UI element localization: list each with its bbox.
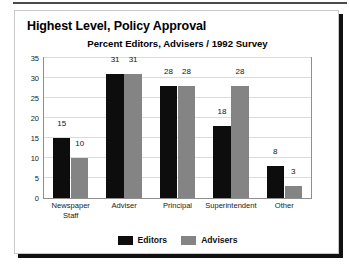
bar-editors-1 xyxy=(106,74,124,198)
legend-item-advisers: Advisers xyxy=(181,235,237,245)
x-axis-label-line: Staff xyxy=(36,211,105,221)
bar-value-label: 18 xyxy=(213,107,231,116)
chart-card: Highest Level, Policy Approval Percent E… xyxy=(14,10,339,254)
bar-editors-4 xyxy=(267,166,285,198)
bar-value-label: 31 xyxy=(124,55,142,64)
bar-advisers-4 xyxy=(285,186,303,198)
bar-value-label: 28 xyxy=(231,67,249,76)
bar-value-label: 28 xyxy=(178,67,196,76)
legend-swatch-editors xyxy=(118,236,133,245)
bar-value-label: 10 xyxy=(71,139,89,148)
chart-legend: Editors Advisers xyxy=(15,235,340,245)
bar-editors-3 xyxy=(213,126,231,198)
y-tick-label: 20 xyxy=(17,114,39,123)
chart-subtitle: Percent Editors, Advisers / 1992 Survey xyxy=(15,38,340,49)
y-tick-label: 30 xyxy=(17,74,39,83)
legend-item-editors: Editors xyxy=(118,235,168,245)
bar-advisers-3 xyxy=(231,86,249,198)
bar-value-label: 15 xyxy=(53,119,71,128)
y-tick-label: 10 xyxy=(17,154,39,163)
bar-value-label: 28 xyxy=(160,67,178,76)
chart-title: Highest Level, Policy Approval xyxy=(27,19,206,33)
bar-series-container: 151031312828182883 xyxy=(44,58,311,198)
y-tick-label: 25 xyxy=(17,94,39,103)
bar-editors-0 xyxy=(53,138,71,198)
top-divider-rule xyxy=(13,2,347,4)
bar-value-label: 8 xyxy=(267,147,285,156)
y-tick-label: 35 xyxy=(17,54,39,63)
bar-advisers-0 xyxy=(71,158,89,198)
x-axis-label-line: Other xyxy=(250,201,319,211)
x-axis-label: Other xyxy=(250,201,319,211)
legend-label-advisers: Advisers xyxy=(201,235,237,245)
y-tick-label: 5 xyxy=(17,174,39,183)
bar-advisers-2 xyxy=(178,86,196,198)
legend-label-editors: Editors xyxy=(138,235,168,245)
bar-advisers-1 xyxy=(124,74,142,198)
chart-screenshot: Highest Level, Policy Approval Percent E… xyxy=(0,0,349,269)
bar-editors-2 xyxy=(160,86,178,198)
legend-swatch-advisers xyxy=(181,236,196,245)
y-tick-label: 15 xyxy=(17,134,39,143)
bar-value-label: 31 xyxy=(106,55,124,64)
bar-value-label: 3 xyxy=(285,167,303,176)
